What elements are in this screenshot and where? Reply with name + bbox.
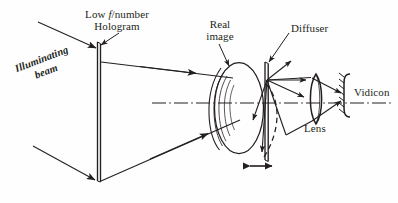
rays-to-vidicon [312,78,341,121]
hologram-label: Low f/number Hologram [73,8,161,33]
reconstructed-beam-upper [101,62,233,78]
lens-label: Lens [304,122,326,134]
diffuser-plate [265,62,268,162]
vidicon-label: Vidicon [354,86,389,98]
hologram-label-line2: Hologram [94,20,139,32]
hologram-plate [98,42,101,182]
optical-diagram: Low f/number Hologram Illuminating beam … [0,0,398,203]
reconstructed-beam-lower [101,120,240,181]
real-image-label: Real image [200,18,240,43]
hologram-label-line1: Low f/number [85,8,149,20]
diagram-canvas [0,0,398,203]
real-image-label-line1: Real [210,18,231,30]
vidicon-detector [339,73,350,117]
diffuser-scatter-rays [253,61,306,152]
label-leader-lines [101,33,289,66]
real-image-label-line2: image [206,30,233,42]
diffuser-label: Diffuser [291,22,328,34]
